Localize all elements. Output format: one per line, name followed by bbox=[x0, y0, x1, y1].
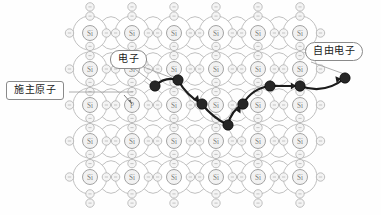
silicon-symbol: Si bbox=[213, 66, 219, 74]
silicon-atom: Si bbox=[293, 134, 308, 149]
lattice-diagram: SiSiSiSiSiSiSiSiSiSiSiSiSiPSiSiSiSiSiSiS… bbox=[0, 0, 381, 215]
moving-electron-marker bbox=[238, 99, 248, 109]
silicon-symbol: Si bbox=[255, 66, 261, 74]
silicon-atom: Si bbox=[209, 98, 224, 113]
silicon-atom: Si bbox=[167, 26, 182, 41]
silicon-atom: Si bbox=[167, 170, 182, 185]
silicon-atom: Si bbox=[209, 134, 224, 149]
silicon-atom: Si bbox=[83, 98, 98, 113]
silicon-symbol: Si bbox=[255, 174, 261, 182]
moving-electron-marker bbox=[150, 81, 160, 91]
silicon-atom: Si bbox=[83, 170, 98, 185]
silicon-atom: Si bbox=[251, 62, 266, 77]
moving-electron-marker bbox=[223, 120, 233, 130]
moving-electron-marker bbox=[265, 81, 275, 91]
silicon-symbol: Si bbox=[87, 138, 93, 146]
silicon-symbol: Si bbox=[297, 102, 303, 110]
silicon-symbol: Si bbox=[297, 138, 303, 146]
silicon-symbol: Si bbox=[213, 30, 219, 38]
silicon-symbol: Si bbox=[171, 102, 177, 110]
silicon-atom: Si bbox=[83, 62, 98, 77]
silicon-symbol: Si bbox=[129, 30, 135, 38]
silicon-symbol: Si bbox=[171, 174, 177, 182]
silicon-atom: Si bbox=[209, 170, 224, 185]
silicon-atom: Si bbox=[293, 98, 308, 113]
silicon-symbol: Si bbox=[87, 102, 93, 110]
silicon-atom: Si bbox=[167, 134, 182, 149]
silicon-symbol: Si bbox=[255, 30, 261, 38]
silicon-atom: Si bbox=[251, 26, 266, 41]
silicon-symbol: Si bbox=[297, 174, 303, 182]
silicon-atom: Si bbox=[209, 26, 224, 41]
silicon-atom: Si bbox=[293, 170, 308, 185]
silicon-symbol: Si bbox=[87, 174, 93, 182]
semiconductor-lattice-figure: SiSiSiSiSiSiSiSiSiSiSiSiSiPSiSiSiSiSiSiS… bbox=[0, 0, 381, 215]
silicon-symbol: Si bbox=[171, 138, 177, 146]
silicon-symbol: Si bbox=[213, 102, 219, 110]
silicon-atom: Si bbox=[209, 62, 224, 77]
moving-electron-marker bbox=[197, 99, 207, 109]
silicon-atom: Si bbox=[83, 134, 98, 149]
phosphorus-atom: P bbox=[125, 98, 140, 113]
silicon-symbol: Si bbox=[87, 66, 93, 74]
moving-electron-marker bbox=[173, 75, 183, 85]
silicon-atom: Si bbox=[251, 134, 266, 149]
silicon-atom: Si bbox=[293, 62, 308, 77]
silicon-symbol: Si bbox=[171, 66, 177, 74]
silicon-atom: Si bbox=[83, 26, 98, 41]
free-electron-marker bbox=[340, 73, 350, 83]
silicon-atom: Si bbox=[251, 98, 266, 113]
moving-electron-marker bbox=[295, 81, 305, 91]
silicon-symbol: Si bbox=[255, 102, 261, 110]
silicon-atom: Si bbox=[125, 134, 140, 149]
silicon-atom: Si bbox=[293, 26, 308, 41]
silicon-symbol: Si bbox=[297, 66, 303, 74]
silicon-symbol: Si bbox=[213, 174, 219, 182]
silicon-symbol: Si bbox=[297, 30, 303, 38]
silicon-symbol: Si bbox=[255, 138, 261, 146]
silicon-atom: Si bbox=[167, 62, 182, 77]
silicon-atom: Si bbox=[251, 170, 266, 185]
silicon-symbol: Si bbox=[129, 174, 135, 182]
silicon-atom: Si bbox=[125, 170, 140, 185]
silicon-symbol: Si bbox=[171, 30, 177, 38]
valence-electron-layer bbox=[65, 3, 324, 208]
callout-electron: 电子 bbox=[110, 50, 147, 69]
silicon-symbol: Si bbox=[129, 138, 135, 146]
silicon-symbol: Si bbox=[213, 138, 219, 146]
callout-free-electron: 自由电子 bbox=[305, 42, 363, 61]
silicon-atom: Si bbox=[125, 26, 140, 41]
silicon-symbol: Si bbox=[87, 30, 93, 38]
silicon-atom: Si bbox=[167, 98, 182, 113]
callout-donor-atom: 施主原子 bbox=[6, 81, 64, 100]
